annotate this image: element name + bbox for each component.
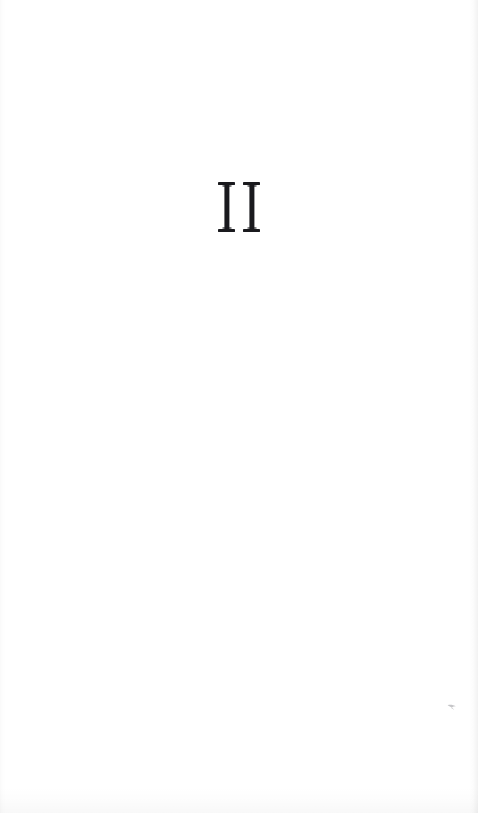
part-numeral-text bbox=[218, 182, 260, 232]
book-page bbox=[0, 0, 478, 813]
numeral-stroke-2 bbox=[243, 182, 260, 232]
numeral-stroke-1 bbox=[218, 182, 235, 232]
glyph-stem bbox=[249, 185, 254, 229]
glyph-stem bbox=[224, 185, 229, 229]
scan-speck-icon bbox=[447, 703, 458, 712]
page-edge-shadow bbox=[469, 0, 478, 813]
part-numeral bbox=[0, 181, 478, 233]
page-gutter-shadow bbox=[0, 0, 6, 813]
numeral-glyph-row bbox=[218, 182, 260, 232]
serif-bottom bbox=[218, 229, 235, 232]
page-bottom-shadow bbox=[0, 787, 478, 813]
serif-bottom bbox=[243, 229, 260, 232]
